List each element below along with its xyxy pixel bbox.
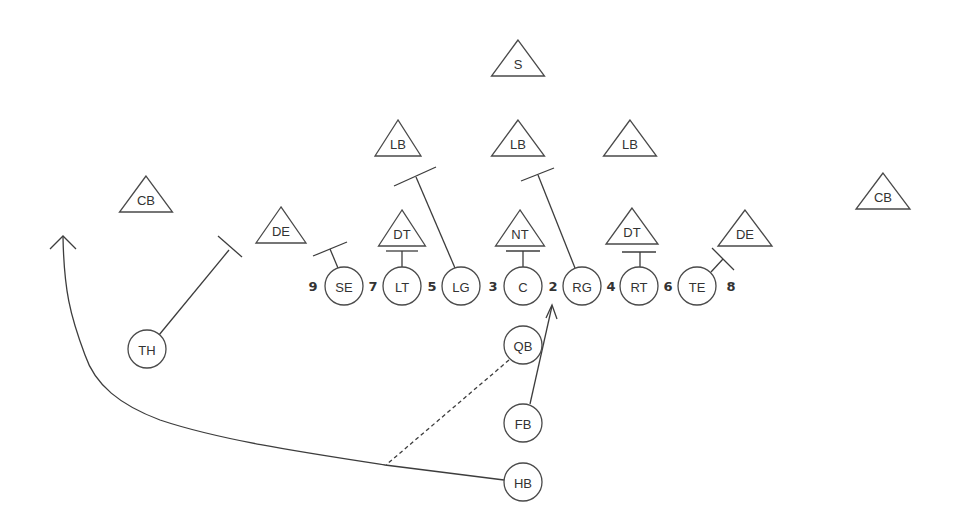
player-rg: RG xyxy=(563,267,601,305)
player-lt: LT xyxy=(383,267,421,305)
defender-de-r: DE xyxy=(718,210,772,246)
defender-label: CB xyxy=(137,193,155,208)
defender-lb-r: LB xyxy=(604,120,657,156)
gap-number: 6 xyxy=(663,279,672,294)
hb-sweep-route xyxy=(63,237,504,480)
rg-block-line xyxy=(538,175,575,268)
play-diagram: SLBLBLBCBCBDEDTNTDTDE SELTLGCRGRTTETHQBF… xyxy=(0,0,954,529)
gap-number: 7 xyxy=(368,279,377,294)
defender-label: LB xyxy=(390,137,406,152)
defender-dt-l: DT xyxy=(379,210,426,246)
defender-label: NT xyxy=(511,227,528,242)
defender-lb-l: LB xyxy=(375,120,421,156)
player-th: TH xyxy=(128,330,166,368)
player-te: TE xyxy=(678,267,716,305)
player-label: QB xyxy=(514,339,533,354)
defender-cb-r: CB xyxy=(856,173,910,209)
gap-number: 9 xyxy=(308,279,317,294)
defender-nt: NT xyxy=(496,210,545,246)
th-block-bar xyxy=(218,236,242,257)
player-label: RG xyxy=(572,280,592,295)
defender-label: DT xyxy=(393,227,410,242)
defender-label: CB xyxy=(874,190,892,205)
player-fb: FB xyxy=(504,404,542,442)
defender-de-l: DE xyxy=(256,207,306,243)
player-label: SE xyxy=(335,280,353,295)
defender-lb-m: LB xyxy=(492,120,545,156)
lg-block-line xyxy=(416,177,455,268)
defender-label: DE xyxy=(272,224,290,239)
gap-number: 2 xyxy=(548,279,557,294)
player-label: HB xyxy=(514,476,532,491)
rg-block-bar xyxy=(521,168,554,181)
th-block-line xyxy=(159,250,229,335)
player-label: LT xyxy=(395,280,409,295)
player-c: C xyxy=(504,267,542,305)
se-block-line xyxy=(330,249,338,268)
player-lg: LG xyxy=(442,267,480,305)
defender-label: LB xyxy=(510,137,526,152)
gap-number: 4 xyxy=(606,279,615,294)
player-hb: HB xyxy=(504,463,542,501)
defender-label: DE xyxy=(736,227,754,242)
player-rt: RT xyxy=(620,267,658,305)
player-label: TE xyxy=(689,280,706,295)
offense-players: SELTLGCRGRTTETHQBFBHB xyxy=(128,267,716,501)
player-label: RT xyxy=(630,280,647,295)
defender-label: LB xyxy=(622,137,638,152)
defender-cb-l: CB xyxy=(120,176,173,212)
defender-label: DT xyxy=(623,225,640,240)
player-qb: QB xyxy=(504,326,542,364)
fb-route-arrowhead xyxy=(546,305,557,319)
player-label: TH xyxy=(138,343,155,358)
gap-number: 5 xyxy=(427,279,436,294)
player-label: LG xyxy=(452,280,469,295)
lg-block-bar xyxy=(394,167,436,186)
defense-players: SLBLBLBCBCBDEDTNTDTDE xyxy=(120,40,911,246)
defender-dt-r: DT xyxy=(606,208,658,244)
defender-s: S xyxy=(492,40,545,76)
player-label: FB xyxy=(515,417,532,432)
qb-pitch-line xyxy=(386,360,509,465)
defender-label: S xyxy=(514,57,523,72)
gap-number: 8 xyxy=(726,279,735,294)
gap-number: 3 xyxy=(488,279,497,294)
te-block-line xyxy=(711,259,723,272)
se-block-bar xyxy=(313,242,347,256)
player-label: C xyxy=(518,280,527,295)
player-se: SE xyxy=(325,267,363,305)
